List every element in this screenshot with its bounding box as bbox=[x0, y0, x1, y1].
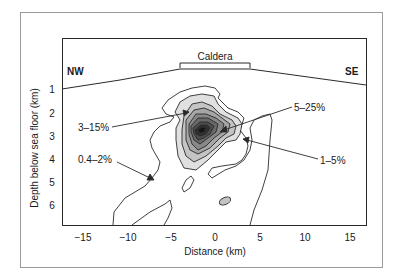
svg-text:−5: −5 bbox=[165, 232, 177, 243]
svg-text:15: 15 bbox=[344, 232, 356, 243]
svg-text:5: 5 bbox=[257, 232, 263, 243]
svg-text:−15: −15 bbox=[75, 232, 92, 243]
x-axis-label: Distance (km) bbox=[184, 246, 246, 257]
svg-text:5: 5 bbox=[49, 177, 55, 188]
svg-text:1: 1 bbox=[49, 84, 55, 95]
annotation-0.4-2: 0.4–2% bbox=[78, 154, 112, 165]
annotation-3-15: 3–15% bbox=[78, 122, 109, 133]
svg-text:0: 0 bbox=[212, 232, 218, 243]
direction-nw: NW bbox=[67, 66, 84, 77]
svg-text:−10: −10 bbox=[120, 232, 137, 243]
caldera-label: Caldera bbox=[197, 51, 232, 62]
annotation-1-5: 1–5% bbox=[320, 155, 346, 166]
y-axis-label: Depth below sea floor (km) bbox=[29, 88, 40, 208]
svg-text:3: 3 bbox=[49, 131, 55, 142]
svg-text:10: 10 bbox=[299, 232, 311, 243]
annotation-5-25: 5–25% bbox=[294, 102, 325, 113]
svg-text:2: 2 bbox=[49, 108, 55, 119]
svg-text:6: 6 bbox=[49, 200, 55, 211]
caldera-cross-section-diagram: Caldera NW SE 3–15% 5–25% 1–5% 0.4–2% 1 … bbox=[0, 0, 395, 280]
svg-text:4: 4 bbox=[49, 154, 55, 165]
direction-se: SE bbox=[345, 66, 359, 77]
